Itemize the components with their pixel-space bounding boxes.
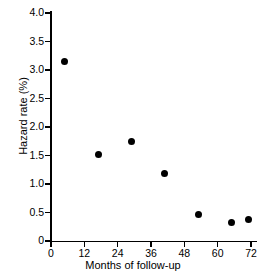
- y-tick-mark: [45, 98, 50, 99]
- y-tick-label: 2.0: [14, 120, 44, 132]
- x-tick-label: 0: [48, 247, 54, 259]
- y-tick-label: 0.5: [14, 206, 44, 218]
- x-tick-label: 48: [178, 247, 190, 259]
- x-tick-label: 12: [78, 247, 90, 259]
- y-tick-mark: [45, 12, 50, 13]
- y-tick-mark: [45, 155, 50, 156]
- x-axis-label: Months of follow-up: [0, 259, 266, 271]
- y-tick-label: 1.0: [14, 177, 44, 189]
- plot-area: [51, 13, 251, 241]
- hazard-rate-scatter-chart: Hazard rate (%) 00.51.01.52.02.53.03.54.…: [0, 0, 266, 279]
- y-tick-mark: [45, 126, 50, 127]
- data-point: [195, 211, 202, 218]
- y-tick-label: 3.0: [14, 63, 44, 75]
- y-tick-label: 1.5: [14, 149, 44, 161]
- y-tick-label: 3.5: [14, 35, 44, 47]
- y-tick-label: 4.0: [14, 6, 44, 18]
- y-tick-mark: [45, 212, 50, 213]
- y-tick-mark: [45, 41, 50, 42]
- y-tick-label: 0: [14, 234, 44, 246]
- y-tick-mark: [45, 240, 50, 241]
- y-tick-label: 2.5: [14, 92, 44, 104]
- x-tick-label: 60: [212, 247, 224, 259]
- y-tick-mark: [45, 69, 50, 70]
- y-tick-mark: [45, 183, 50, 184]
- x-tick-label: 36: [145, 247, 157, 259]
- x-tick-label: 24: [112, 247, 124, 259]
- x-tick-label: 72: [245, 247, 257, 259]
